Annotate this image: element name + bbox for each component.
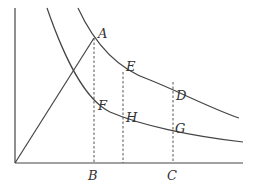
ray-line — [15, 38, 94, 163]
point-label-a: A — [97, 26, 107, 41]
point-label-e: E — [125, 59, 136, 74]
point-label-f: F — [97, 98, 108, 113]
point-label-b: B — [87, 168, 98, 183]
point-label-h: H — [125, 110, 138, 125]
point-label-c: C — [167, 168, 177, 183]
point-label-g: G — [175, 121, 185, 136]
diagram: AEDFHGBC — [0, 0, 255, 193]
point-label-d: D — [175, 88, 187, 103]
lower-curve — [47, 8, 243, 142]
